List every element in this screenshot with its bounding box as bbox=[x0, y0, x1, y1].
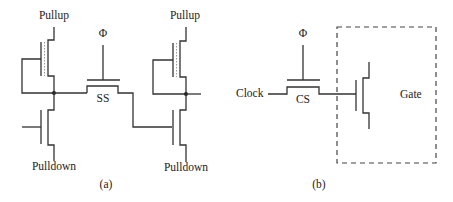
left-pullup-channel bbox=[48, 27, 54, 93]
cs-label: CS bbox=[296, 93, 310, 105]
clock-input-label: Clock bbox=[236, 87, 264, 99]
left-pulldown-label: Pulldown bbox=[32, 160, 76, 172]
right-inverter: Pullup Pulldown bbox=[153, 9, 208, 173]
panel-b: Φ Clock CS Gate bbox=[236, 27, 436, 163]
ss-label: SS bbox=[97, 92, 110, 104]
right-pulldown-label: Pulldown bbox=[164, 161, 208, 173]
gate-transistor-channel bbox=[363, 62, 369, 129]
right-pulldown-channel bbox=[180, 94, 186, 162]
caption-b: (b) bbox=[312, 178, 326, 191]
cs-channel-wire bbox=[268, 87, 356, 94]
ss-clock-label: Φ bbox=[99, 27, 108, 39]
left-pullup-label: Pullup bbox=[39, 9, 69, 22]
caption-a: (a) bbox=[100, 178, 113, 191]
right-pullup-label: Pullup bbox=[170, 9, 200, 22]
circuit-diagram: Pullup Pulldown Φ SS Pullup Pulldown (a)… bbox=[0, 0, 453, 202]
cs-clock-label: Φ bbox=[299, 27, 308, 39]
left-inverter: Pullup Pulldown bbox=[22, 9, 87, 172]
ss-pass-transistor: Φ SS bbox=[87, 27, 172, 127]
left-pulldown-channel bbox=[48, 93, 54, 161]
gate-label: Gate bbox=[400, 88, 422, 100]
right-pullup-channel bbox=[180, 27, 186, 94]
